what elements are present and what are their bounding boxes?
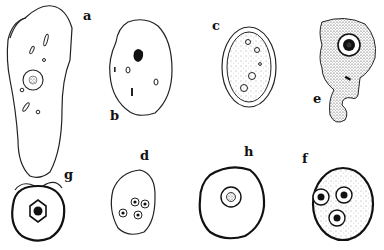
specimen-b bbox=[110, 20, 172, 116]
label-g: g bbox=[64, 167, 73, 182]
label-d: d bbox=[140, 148, 149, 163]
figure-canvas: a b c e g d h f bbox=[0, 0, 384, 250]
label-h: h bbox=[244, 144, 254, 159]
specimen-g bbox=[12, 182, 64, 240]
label-e: e bbox=[313, 91, 321, 106]
specimen-f bbox=[313, 168, 373, 240]
label-a: a bbox=[83, 8, 92, 23]
label-b: b bbox=[110, 108, 119, 123]
specimen-a bbox=[7, 6, 72, 178]
label-c: c bbox=[212, 18, 220, 33]
specimen-d bbox=[111, 170, 155, 234]
specimen-h bbox=[200, 167, 264, 238]
specimen-c bbox=[222, 27, 276, 107]
label-f: f bbox=[302, 151, 309, 166]
illustration: a b c e g d h f bbox=[0, 0, 384, 250]
specimen-e bbox=[320, 18, 376, 122]
